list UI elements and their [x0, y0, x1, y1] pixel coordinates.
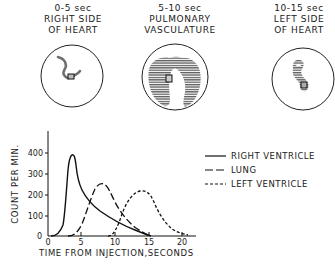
- y-axis-label: COUNT PER MIN.: [10, 144, 20, 224]
- legend-item-lung: LUNG: [205, 165, 256, 175]
- roi-marker: [68, 74, 74, 79]
- scan-right-heart: [41, 45, 103, 107]
- svg-text:LUNG: LUNG: [231, 165, 256, 175]
- legend-item-right-ventricle: RIGHT VENTRICLE: [205, 151, 315, 161]
- scan-left-heart: [272, 48, 334, 110]
- svg-text:RIGHT VENTRICLE: RIGHT VENTRICLE: [231, 151, 315, 161]
- x-tick-15: 15: [144, 238, 154, 247]
- y-tick-200: 200: [28, 191, 43, 200]
- chart: 0 100 200 300 400 0 5 10 15 20 COUNT PER…: [10, 131, 315, 258]
- x-tick-10: 10: [110, 238, 120, 247]
- scan-pulmonary: [142, 44, 208, 110]
- curve-left-ventricle: [108, 191, 188, 236]
- figure-canvas: 0 100 200 300 400 0 5 10 15 20 COUNT PER…: [0, 0, 335, 267]
- roi-marker: [301, 82, 307, 88]
- x-ticks: [81, 232, 182, 236]
- x-tick-20: 20: [177, 238, 187, 247]
- y-tick-0: 0: [37, 232, 42, 241]
- y-tick-100: 100: [28, 212, 43, 221]
- legend: RIGHT VENTRICLE LUNG LEFT VENTRICLE: [205, 151, 315, 189]
- curve-right-ventricle: [51, 155, 151, 236]
- roi-marker: [166, 75, 172, 82]
- x-axis-label: TIME FROM INJECTION,SECONDS: [38, 248, 194, 258]
- y-tick-300: 300: [28, 170, 43, 179]
- x-tick-5: 5: [78, 238, 83, 247]
- y-tick-400: 400: [28, 149, 43, 158]
- svg-text:LEFT VENTRICLE: LEFT VENTRICLE: [231, 179, 308, 189]
- x-tick-0: 0: [45, 238, 50, 247]
- legend-item-left-ventricle: LEFT VENTRICLE: [205, 179, 308, 189]
